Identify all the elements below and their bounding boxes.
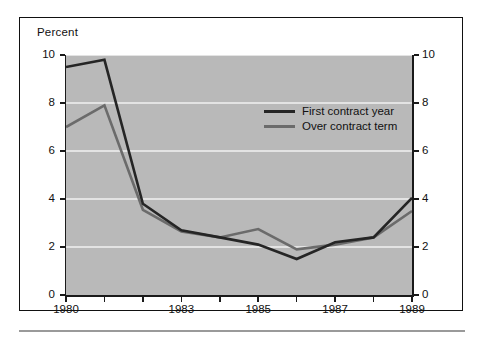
legend-label: Over contract term [302,121,397,133]
x-axis-tick-label: 1985 [238,304,278,316]
y-axis-tick-label: 8 [33,97,55,109]
y-tick-mark [60,294,65,296]
axis-title-percent: Percent [37,26,78,38]
series-line-first-contract-year [66,60,412,259]
y-tick-mark-right [414,54,419,56]
gridlines [66,55,412,247]
x-tick-mark [65,297,67,302]
x-tick-mark [142,297,144,302]
footer-rule [19,330,465,332]
y-axis-tick-label-right: 6 [422,145,444,157]
y-tick-mark-right [414,102,419,104]
y-tick-mark-right [414,198,419,200]
x-tick-mark [104,297,106,302]
y-tick-mark [60,150,65,152]
y-axis-left-spine [65,55,67,295]
y-axis-right-spine [412,55,414,295]
x-tick-mark [334,297,336,302]
data-series-layer [66,60,412,259]
y-tick-mark [60,54,65,56]
x-axis-tick-label: 1980 [46,304,86,316]
plot-area [66,55,412,295]
legend-line-swatch [264,110,295,113]
y-axis-tick-label-right: 4 [422,193,444,205]
y-axis-tick-label: 6 [33,145,55,157]
x-tick-mark [411,297,413,302]
x-tick-mark [219,297,221,302]
y-tick-mark-right [414,150,419,152]
y-tick-mark-right [414,246,419,248]
plot-canvas [66,55,412,295]
chart-figure: Percent 0246810 0246810 1980198319851987… [0,0,484,345]
chart-legend: First contract yearOver contract term [264,104,397,134]
y-axis-tick-label-right: 8 [422,97,444,109]
y-axis-tick-label: 10 [33,49,55,61]
y-axis-tick-label-right: 10 [422,49,444,61]
y-axis-tick-label: 2 [33,241,55,253]
y-tick-mark [60,198,65,200]
x-axis-tick-label: 1989 [392,304,432,316]
x-tick-mark [181,297,183,302]
legend-item: First contract year [264,104,397,119]
y-axis-tick-label: 4 [33,193,55,205]
y-tick-mark [60,102,65,104]
x-tick-mark [257,297,259,302]
y-axis-tick-label-right: 0 [422,289,444,301]
x-axis-tick-label: 1987 [315,304,355,316]
x-tick-mark [296,297,298,302]
x-axis-spine [65,295,414,297]
x-tick-mark [373,297,375,302]
y-axis-tick-label: 0 [33,289,55,301]
y-tick-mark-right [414,294,419,296]
y-tick-mark [60,246,65,248]
y-axis-tick-label-right: 2 [422,241,444,253]
legend-label: First contract year [302,106,394,118]
legend-item: Over contract term [264,119,397,134]
legend-line-swatch [264,125,295,128]
x-axis-tick-label: 1983 [161,304,201,316]
